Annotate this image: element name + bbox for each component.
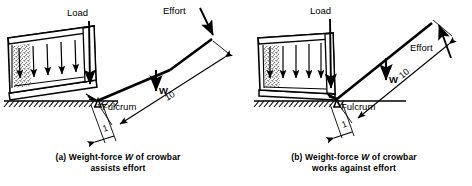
label-dimension-1-b: 1 xyxy=(340,119,348,130)
effort-arrow-a xyxy=(200,8,213,35)
load-crate-b xyxy=(258,33,335,100)
load-crate-a xyxy=(8,26,97,100)
label-fulcrum-b: Fulcrum xyxy=(341,101,375,112)
load-arrow-b xyxy=(330,19,331,88)
label-dimension-10-b: 10 xyxy=(397,66,411,80)
caption-a-symbol: W xyxy=(125,152,133,162)
label-effort-a: Effort xyxy=(163,5,186,16)
label-fulcrum-a: Fulcrum xyxy=(102,101,136,112)
caption-a-suffix: of crowbar xyxy=(133,152,180,162)
caption-b-suffix: of crowbar xyxy=(369,152,416,162)
crowbar-diagram-a: Load Fulcrum W xyxy=(0,0,236,152)
diagram-panel-a: Load Fulcrum W xyxy=(0,0,236,186)
label-dimension-1-a: 1 xyxy=(101,123,109,134)
caption-a-prefix: (a) Weight-force xyxy=(55,152,124,162)
diagram-panel-b: Load Fulcrum W Effort xyxy=(236,0,472,186)
crowbar-a xyxy=(86,39,212,101)
crowbar-b xyxy=(326,23,432,99)
caption-a-line2: assists effort xyxy=(90,163,145,173)
load-arrow-a xyxy=(89,21,90,84)
label-weight-b: W xyxy=(389,74,398,85)
crowbar-diagram-b: Load Fulcrum W Effort xyxy=(236,0,472,152)
caption-b: (b) Weight-force W of crowbar works agai… xyxy=(236,152,472,174)
dimension-10-a xyxy=(98,41,228,125)
label-load-a: Load xyxy=(67,7,88,18)
caption-a: (a) Weight-force W of crowbar assists ef… xyxy=(0,152,236,174)
label-effort-b: Effort xyxy=(410,42,433,53)
figure-root: Load Fulcrum W xyxy=(0,0,472,186)
caption-b-prefix: (b) Weight-force xyxy=(291,152,361,162)
caption-b-line2: works against effort xyxy=(312,163,396,173)
label-load-b: Load xyxy=(310,5,331,16)
